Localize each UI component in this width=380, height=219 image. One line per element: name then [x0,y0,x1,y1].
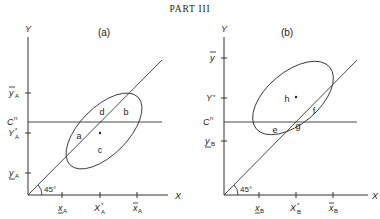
center-point-a [99,132,101,134]
x-axis-label: X [174,191,182,201]
svg-text:y: y [204,136,210,146]
page-header: PART III [170,4,211,14]
svg-text:A: A [101,209,105,215]
region-label-c: c [98,145,103,155]
svg-text:B: B [260,208,264,214]
y-axis-label: Y [221,24,228,34]
svg-text:y: y [209,53,215,63]
center-point-b [295,96,297,98]
svg-text:X: X [93,203,101,213]
svg-text:Y: Y [206,93,213,103]
svg-text:*: * [15,127,18,133]
svg-text:C: C [7,117,14,127]
svg-text:n: n [210,115,213,121]
region-label-h: h [284,94,289,104]
svg-text:B: B [211,141,215,147]
svg-text:*: * [101,202,104,208]
y-tick-label-ybar-a: y A [8,87,19,99]
svg-text:n: n [14,115,17,121]
svg-text:A: A [15,134,19,140]
svg-text:*: * [213,94,216,100]
svg-text:*: * [297,202,300,208]
svg-text:Y: Y [8,128,15,138]
x-tick-label-xstar-b: X * B [289,202,301,215]
angle-arc [38,185,42,195]
region-label-e: e [272,125,277,135]
region-label-f: f [313,106,316,116]
panel-a-label: (a) [98,27,110,38]
svg-text:C: C [203,117,210,127]
y-axis-label: Y [25,24,32,34]
svg-text:y: y [8,168,14,178]
region-label-b: b [123,107,128,117]
svg-text:A: A [15,93,19,99]
x-axis-label: X [371,191,379,201]
region-label-g: g [295,121,300,131]
45-degree-line [28,60,162,195]
svg-text:X: X [289,203,297,213]
angle-arc [234,185,238,195]
angle-label: 45° [44,185,56,194]
y-tick-label-ystar-b: Y * [206,93,216,103]
svg-text:y: y [8,88,14,98]
cn-label-b: C n [203,115,213,127]
panel-b-label: (b) [281,27,293,38]
ellipse-a [53,80,155,182]
cn-label-a: C n [7,115,17,127]
ellipse-b [240,47,347,149]
panel-b: (b) Y X 45° y Y * C n y [203,24,379,215]
figure: PART III (a) Y X 45° y A C n Y [0,0,380,219]
svg-text:A: A [15,173,19,179]
x-tick-label-xunder-a: x A [57,203,67,214]
y-tick-label-yunder-b: y B [204,136,215,147]
svg-text:A: A [63,208,67,214]
panel-a: (a) Y X 45° y A C n Y * A [7,24,182,215]
angle-label: 45° [240,185,252,194]
svg-text:A: A [138,208,142,214]
svg-text:B: B [334,208,338,214]
45-degree-line [224,60,357,195]
x-tick-label-xunder-b: x B [254,203,264,214]
x-tick-label-xbar-b: x B [328,203,338,214]
svg-text:B: B [297,209,301,215]
region-label-d: d [99,107,104,117]
y-tick-label-ystar-a: Y * A [8,127,19,140]
x-tick-label-xstar-a: X * A [93,202,105,215]
x-tick-label-xbar-a: x A [132,203,142,214]
region-label-a: a [76,131,81,141]
y-tick-label-ybar-b: y [209,52,216,63]
y-tick-label-yunder-a: y A [8,168,19,179]
